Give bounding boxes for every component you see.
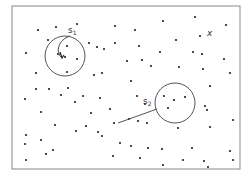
data-point: [112, 155, 114, 157]
data-point: [136, 95, 138, 97]
x-marker-label: x: [206, 28, 213, 38]
data-point: [232, 159, 234, 161]
data-point: [35, 88, 37, 90]
data-point: [159, 51, 161, 53]
data-point: [167, 107, 169, 109]
data-point: [113, 122, 115, 124]
data-point: [178, 66, 180, 68]
data-point: [139, 157, 141, 159]
data-point: [82, 95, 84, 97]
region-circle-s2: [155, 83, 195, 123]
data-point: [109, 108, 111, 110]
data-point: [64, 56, 66, 58]
data-point: [93, 74, 95, 76]
data-point: [161, 148, 163, 150]
data-point: [229, 72, 231, 74]
diagram-frame: [12, 6, 240, 169]
data-point: [76, 23, 78, 25]
data-point: [177, 127, 179, 129]
data-point: [96, 46, 98, 48]
s1-label: s1: [68, 25, 77, 36]
data-point: [130, 80, 132, 82]
data-point: [66, 45, 68, 47]
data-point: [114, 25, 116, 27]
data-point: [76, 58, 78, 60]
data-point: [147, 147, 149, 149]
data-point: [101, 72, 103, 74]
data-point: [119, 142, 121, 144]
data-point: [126, 60, 128, 62]
data-point: [209, 85, 211, 87]
data-point: [146, 122, 148, 124]
data-point: [162, 20, 164, 22]
data-point: [130, 145, 132, 147]
region-circles: [45, 36, 195, 123]
data-point: [75, 130, 77, 132]
data-point: [88, 42, 90, 44]
point-set-diagram: s1 s2 x: [0, 0, 250, 182]
s2-label: s2: [143, 96, 152, 107]
data-point: [47, 39, 49, 41]
data-point: [206, 109, 208, 111]
data-point: [103, 48, 105, 50]
data-point: [223, 58, 225, 60]
data-point: [54, 124, 56, 126]
data-point: [37, 29, 39, 31]
data-point: [162, 164, 164, 166]
data-point: [90, 112, 92, 114]
data-point: [192, 51, 194, 53]
data-point: [207, 166, 209, 168]
data-point: [232, 119, 234, 121]
data-point: [209, 126, 211, 128]
data-point: [25, 134, 27, 136]
data-point: [194, 16, 196, 18]
data-point: [202, 68, 204, 70]
data-point: [138, 45, 140, 47]
data-point: [67, 87, 69, 89]
data-point: [24, 98, 26, 100]
data-point: [45, 153, 47, 155]
data-point: [25, 52, 27, 54]
data-point: [52, 149, 54, 151]
data-point: [191, 147, 193, 149]
s1-pointer-arc: [58, 36, 70, 58]
data-point: [35, 72, 37, 74]
data-point: [40, 139, 42, 141]
data-point: [225, 24, 227, 26]
data-point: [24, 143, 26, 145]
data-point: [134, 29, 136, 31]
data-point: [204, 105, 206, 107]
data-point: [173, 99, 175, 101]
data-point: [163, 95, 165, 97]
data-point: [101, 135, 103, 137]
data-point: [229, 150, 231, 152]
data-point: [85, 125, 87, 127]
data-point: [40, 111, 42, 113]
data-point: [201, 53, 203, 55]
data-point: [150, 65, 152, 67]
data-point: [141, 59, 143, 61]
data-point: [99, 97, 101, 99]
data-point: [199, 35, 201, 37]
data-point: [74, 101, 76, 103]
data-point: [25, 159, 27, 161]
data-point: [48, 88, 50, 90]
data-point: [203, 160, 205, 162]
data-point: [97, 131, 99, 133]
data-point: [60, 94, 62, 96]
data-point: [66, 71, 68, 73]
data-point: [175, 39, 177, 41]
data-point: [55, 26, 57, 28]
data-point: [137, 120, 139, 122]
data-point: [184, 96, 186, 98]
data-point: [114, 42, 116, 44]
data-point: [182, 159, 184, 161]
